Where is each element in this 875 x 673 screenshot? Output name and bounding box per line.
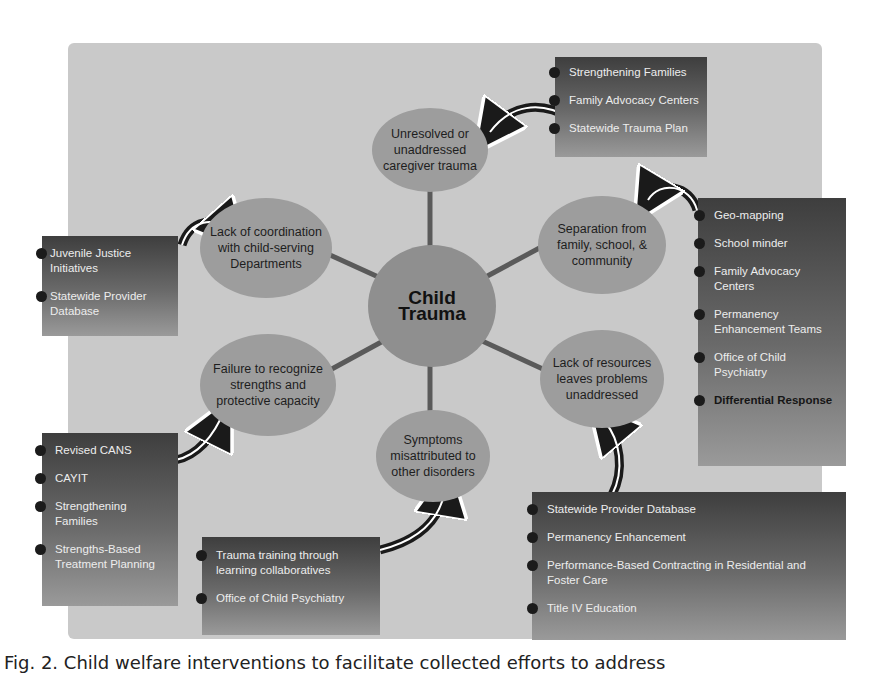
center-node-child-trauma: Child Trauma	[368, 245, 496, 367]
bullet-icon	[694, 352, 705, 363]
box-bottom-interventions: Trauma training through learning collabo…	[202, 537, 380, 635]
bullet-icon	[694, 395, 705, 406]
node-failure-to-recognize: Failure to recognize strengths and prote…	[200, 334, 336, 436]
bullet-icon	[35, 501, 46, 512]
list-item: Office of Child Psychiatry	[216, 591, 372, 606]
bullet-icon	[527, 532, 538, 543]
bullet-icon	[527, 560, 538, 571]
list-item: Permanency Enhancement	[547, 530, 838, 545]
node-lack-of-resources: Lack of resources leaves problems unaddr…	[540, 330, 664, 428]
bullet-icon	[196, 593, 207, 604]
list-item: Statewide Trauma Plan	[569, 121, 699, 136]
bullet-icon	[36, 248, 47, 259]
list-item: Statewide Provider Database	[547, 502, 838, 517]
bullet-icon	[549, 95, 560, 106]
box-lower-left-interventions: Revised CANS CAYIT Strengthening Familie…	[42, 433, 178, 606]
bullet-icon	[549, 67, 560, 78]
list-item: Family Advocacy Centers	[569, 93, 699, 108]
center-label: Child Trauma	[376, 290, 488, 322]
box-lower-right-interventions: Statewide Provider Database Permanency E…	[532, 492, 846, 640]
list-item: Strengthening Families	[569, 65, 699, 80]
node-symptoms-misattributed: Symptoms misattributed to other disorder…	[376, 410, 490, 502]
bullet-icon	[549, 123, 560, 134]
list-item: Permanency Enhancement Teams	[714, 307, 838, 337]
box-upper-left-interventions: Juvenile Justice Initiatives Statewide P…	[42, 236, 178, 336]
list-item: School minder	[714, 236, 838, 251]
list-item: Trauma training through learning collabo…	[216, 548, 372, 578]
list-item: Strengthening Families	[55, 499, 170, 529]
node-separation: Separation from family, school, & commun…	[538, 196, 666, 294]
list-item: Differential Response	[714, 393, 838, 408]
bullet-icon	[35, 544, 46, 555]
bullet-icon	[694, 238, 705, 249]
bullet-icon	[527, 603, 538, 614]
bullet-icon	[35, 473, 46, 484]
box-upper-right-interventions: Geo-mapping School minder Family Advocac…	[698, 198, 846, 466]
list-item: Revised CANS	[55, 443, 170, 458]
box-top-interventions: Strengthening Families Family Advocacy C…	[555, 57, 707, 157]
list-item: CAYIT	[55, 471, 170, 486]
bullet-icon	[36, 291, 47, 302]
bullet-icon	[694, 210, 705, 221]
node-lack-of-coordination: Lack of coordination with child-serving …	[200, 198, 332, 298]
list-item: Performance-Based Contracting in Residen…	[547, 558, 838, 588]
list-item: Office of Child Psychiatry	[714, 350, 838, 380]
bullet-icon	[694, 309, 705, 320]
bullet-icon	[694, 266, 705, 277]
list-item: Title IV Education	[547, 601, 838, 616]
bullet-icon	[35, 445, 46, 456]
bullet-icon	[527, 504, 538, 515]
list-item: Family Advocacy Centers	[714, 264, 838, 294]
list-item: Statewide Provider Database	[50, 289, 170, 319]
list-item: Juvenile Justice Initiatives	[50, 246, 170, 276]
list-item: Strengths-Based Treatment Planning	[55, 542, 170, 572]
bullet-icon	[196, 550, 207, 561]
list-item: Geo-mapping	[714, 208, 838, 223]
node-caregiver-trauma: Unresolved or unaddressed caregiver trau…	[372, 108, 488, 192]
figure-caption: Fig. 2. Child welfare interventions to f…	[4, 652, 665, 673]
